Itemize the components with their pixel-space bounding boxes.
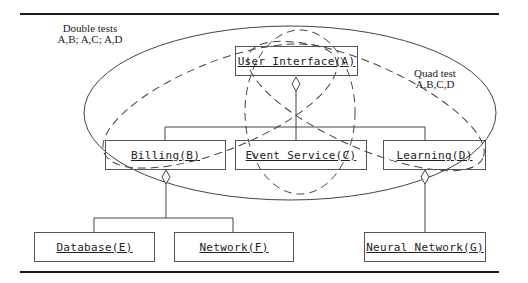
component-network: Network(F)	[174, 232, 294, 262]
component-label: Network(F)	[199, 241, 268, 254]
component-user-interface: User Interface(A)	[235, 46, 358, 76]
component-label: User Interface(A)	[238, 55, 356, 68]
double-tests-note: Double tests A,B; A,C; A,D	[50, 23, 130, 45]
component-learning: Learning(D)	[383, 140, 486, 170]
component-test-diagram: Double tests A,B; A,C; A,D Quad test A,B…	[0, 0, 528, 283]
component-label: Event Service(C)	[246, 149, 357, 162]
component-label: Billing(B)	[131, 149, 200, 162]
component-event-service: Event Service(C)	[235, 140, 367, 170]
component-label: Learning(D)	[396, 149, 472, 162]
quad-test-set: A,B,C,D	[413, 79, 457, 90]
double-tests-pairs: A,B; A,C; A,D	[50, 34, 130, 45]
component-database: Database(E)	[34, 232, 155, 262]
aggregation-diamond-d	[421, 170, 429, 184]
component-label: Neural Network(G)	[366, 241, 484, 254]
component-neural-network: Neural Network(G)	[364, 232, 486, 262]
quad-test-note: Quad test A,B,C,D	[413, 68, 457, 90]
component-billing: Billing(B)	[105, 140, 226, 170]
component-label: Database(E)	[56, 241, 132, 254]
aggregation-diamond-a	[292, 77, 300, 91]
